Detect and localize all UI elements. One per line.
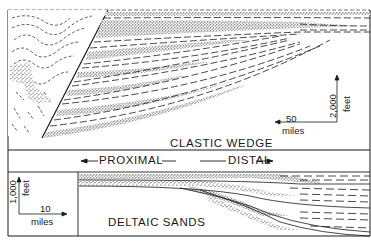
bottom-horizontal-scale-value: 10 [40,203,51,214]
deltaic-sands-title: DELTAIC SANDS [108,216,205,228]
bottom-horizontal-scale-unit: miles [31,216,53,227]
clastic-wedge-title: CLASTIC WEDGE [170,137,273,149]
top-panel [8,10,370,150]
top-horizontal-scale-unit: miles [282,125,304,136]
distal-label: DISTAL [228,154,271,166]
bottom-vertical-scale-unit: feet [20,180,31,196]
clastic-wedge-diagram [0,0,371,244]
proximal-label: PROXIMAL [99,154,163,166]
top-horizontal-scale-value: 50 [286,113,297,124]
bottom-vertical-scale-value: 1,000 [7,180,18,204]
top-vertical-scale-unit: feet [341,96,352,112]
top-vertical-scale-value: 2,000 [327,94,338,118]
